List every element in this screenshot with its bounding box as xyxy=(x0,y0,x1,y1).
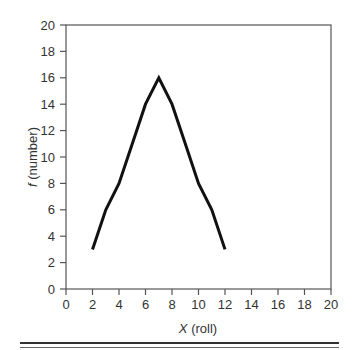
x-tick-label: 16 xyxy=(271,297,285,312)
x-axis-title: X (roll) xyxy=(178,321,217,336)
frequency-line xyxy=(93,78,226,250)
y-tick-label: 6 xyxy=(48,202,55,217)
x-axis-unit: (roll) xyxy=(188,321,218,336)
x-tick-label: 18 xyxy=(297,297,311,312)
y-tick-label: 14 xyxy=(41,97,55,112)
x-tick-label: 14 xyxy=(244,297,258,312)
bottom-rule-thin xyxy=(20,347,339,348)
y-tick-label: 18 xyxy=(41,44,55,59)
line-chart: 02468101214161820 02468101214161820 X (r… xyxy=(0,0,354,340)
x-tick-label: 0 xyxy=(62,297,69,312)
y-tick-label: 10 xyxy=(41,150,55,165)
x-tick-label: 2 xyxy=(89,297,96,312)
y-tick-label: 16 xyxy=(41,70,55,85)
bottom-rule-thick xyxy=(20,342,339,344)
x-tick-label: 12 xyxy=(218,297,232,312)
x-tick-label: 4 xyxy=(115,297,122,312)
y-axis: 02468101214161820 xyxy=(41,18,66,297)
y-tick-label: 12 xyxy=(41,123,55,138)
x-tick-label: 8 xyxy=(168,297,175,312)
x-axis: 02468101214161820 xyxy=(62,289,338,312)
y-tick-label: 2 xyxy=(48,255,55,270)
x-tick-label: 10 xyxy=(191,297,205,312)
data-series xyxy=(93,78,226,250)
x-tick-label: 6 xyxy=(142,297,149,312)
y-tick-label: 4 xyxy=(48,229,55,244)
plot-border xyxy=(66,25,331,289)
y-axis-unit: (number) xyxy=(25,127,40,183)
y-tick-label: 0 xyxy=(48,282,55,297)
y-tick-label: 8 xyxy=(48,176,55,191)
y-axis-title: f (number) xyxy=(25,127,40,187)
plot-frame xyxy=(66,25,331,289)
x-tick-label: 20 xyxy=(324,297,338,312)
y-tick-label: 20 xyxy=(41,18,55,33)
